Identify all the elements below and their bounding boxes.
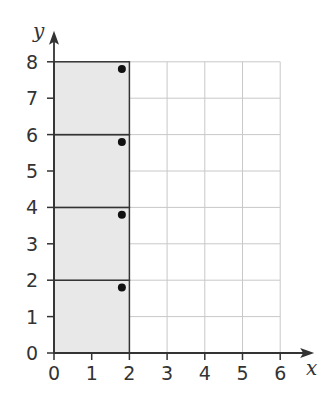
data-point xyxy=(118,283,126,291)
shaded-rectangle xyxy=(54,62,129,135)
data-point xyxy=(118,211,126,219)
x-tick-label: 5 xyxy=(236,362,248,384)
x-tick-label: 1 xyxy=(86,362,98,384)
shaded-rectangle xyxy=(54,280,129,353)
shaded-rectangle xyxy=(54,135,129,208)
y-tick-label: 7 xyxy=(26,87,38,109)
y-axis-label: y xyxy=(32,19,45,43)
data-point xyxy=(118,138,126,146)
x-tick-label: 2 xyxy=(123,362,135,384)
x-tick-label: 6 xyxy=(274,362,286,384)
y-tick-label: 0 xyxy=(26,342,38,364)
x-tick-label: 4 xyxy=(199,362,211,384)
y-tick-label: 8 xyxy=(26,51,38,73)
y-tick-label: 1 xyxy=(26,306,38,328)
x-tick-label: 3 xyxy=(161,362,173,384)
y-tick-label: 2 xyxy=(26,269,38,291)
shaded-rectangle xyxy=(54,207,129,280)
x-axis-label: x xyxy=(306,356,317,380)
data-point xyxy=(118,65,126,73)
y-tick-label: 6 xyxy=(26,124,38,146)
y-tick-label: 4 xyxy=(26,196,38,218)
chart-plot: 0123456012345678 x y xyxy=(0,0,332,400)
shaded-rectangles xyxy=(54,62,129,353)
y-tick-label: 3 xyxy=(26,233,38,255)
x-tick-label: 0 xyxy=(48,362,60,384)
y-tick-label: 5 xyxy=(26,160,38,182)
